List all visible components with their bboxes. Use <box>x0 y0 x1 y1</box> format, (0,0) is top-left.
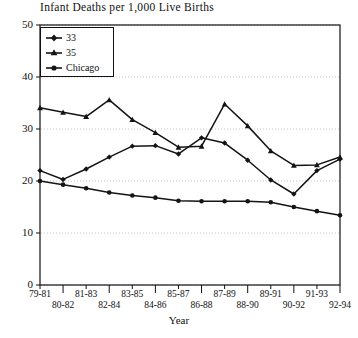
data-point <box>222 199 227 204</box>
legend-marker-circle-icon <box>45 62 63 74</box>
x-axis-tick-label: 91-93 <box>306 289 328 299</box>
data-point <box>60 177 65 182</box>
data-point <box>130 143 135 148</box>
x-axis-tick-label: 83-85 <box>121 289 143 299</box>
y-axis-tick-label: 20 <box>11 174 33 186</box>
series-line <box>40 181 340 215</box>
legend-entry-35: 35 <box>45 45 76 60</box>
legend-marker-triangle-icon <box>45 47 63 59</box>
data-point <box>153 143 158 148</box>
data-point <box>84 186 89 191</box>
x-axis-tick-label: 92-94 <box>329 300 351 310</box>
x-axis-tick-label: 86-88 <box>190 300 212 310</box>
x-axis-tick-label: 80-82 <box>52 300 74 310</box>
x-axis-tick-label: 87-89 <box>214 289 236 299</box>
data-point <box>315 209 320 214</box>
y-axis-tick-label: 10 <box>11 226 33 238</box>
y-axis-tick-label: 50 <box>11 18 33 30</box>
data-point <box>107 154 112 159</box>
data-point <box>199 199 204 204</box>
x-axis-tick-label: 85-87 <box>167 289 189 299</box>
legend-entry-33: 33 <box>45 30 76 45</box>
x-axis-tick-label: 81-83 <box>75 289 97 299</box>
data-point <box>130 193 135 198</box>
x-axis-tick-label: 90-92 <box>283 300 305 310</box>
legend-label-35: 35 <box>66 48 76 58</box>
data-point <box>152 130 158 135</box>
legend-entry-chicago: Chicago <box>45 60 99 75</box>
data-series-35 <box>37 97 343 168</box>
legend-label-chicago: Chicago <box>66 63 99 73</box>
data-point <box>106 97 112 102</box>
x-axis-tick-label: 82-84 <box>98 300 120 310</box>
data-point <box>38 179 43 184</box>
legend-marker-diamond-icon <box>45 32 63 44</box>
data-point <box>337 154 343 159</box>
y-axis-tick-label: 40 <box>11 70 33 82</box>
x-axis-tick-label: 79-81 <box>29 289 51 299</box>
data-point <box>176 198 181 203</box>
chart-legend: 33 35 Chicago <box>40 27 114 77</box>
data-point <box>37 168 42 173</box>
data-point <box>292 205 297 210</box>
legend-label-33: 33 <box>66 33 76 43</box>
data-point <box>245 199 250 204</box>
data-point <box>153 195 158 200</box>
data-series-group <box>37 97 343 218</box>
x-axis-label: Year <box>0 314 358 326</box>
data-point <box>107 190 112 195</box>
data-point <box>338 213 343 218</box>
series-line <box>40 100 340 166</box>
data-series-chicago <box>38 179 343 218</box>
x-axis-tick-label: 84-86 <box>144 300 166 310</box>
data-point <box>268 200 273 205</box>
x-axis-tick-label: 88-90 <box>237 300 259 310</box>
data-point <box>83 166 88 171</box>
chart-figure: Infant Deaths per 1,000 Live Births 5040… <box>0 0 358 338</box>
x-axis-tick-label: 89-91 <box>260 289 282 299</box>
data-point <box>61 182 66 187</box>
data-point <box>222 101 228 106</box>
y-axis-tick-label: 30 <box>11 122 33 134</box>
